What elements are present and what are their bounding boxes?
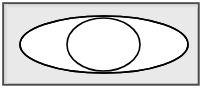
venn-diagram-figure: [0, 0, 205, 89]
set-b-ellipse: [67, 18, 140, 71]
universe-top-inner-shade: [4, 4, 198, 8]
universe-left-inner-shade: [4, 4, 8, 84]
venn-diagram-canvas: [0, 0, 205, 89]
